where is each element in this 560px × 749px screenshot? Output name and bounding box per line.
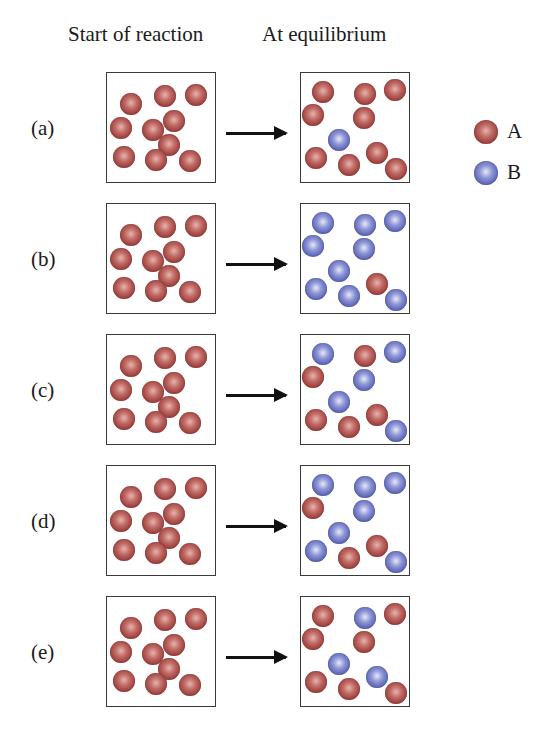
sphere-a-icon (154, 347, 176, 369)
sphere-b-icon (353, 369, 375, 391)
start-of-reaction-box (106, 72, 216, 183)
sphere-b-icon (312, 343, 334, 365)
at-equilibrium-box (300, 596, 410, 707)
sphere-a-icon (120, 617, 142, 639)
row-label: (a) (31, 116, 54, 141)
row-label: (b) (31, 247, 56, 272)
sphere-a-icon (338, 154, 360, 176)
start-of-reaction-box (106, 334, 216, 445)
sphere-b-icon (328, 522, 350, 544)
sphere-b-icon (385, 420, 407, 442)
sphere-a-icon (110, 379, 132, 401)
sphere-a-icon (384, 79, 406, 101)
sphere-a-icon (110, 248, 132, 270)
legend-item-a: A (474, 119, 522, 144)
sphere-b-icon (328, 129, 350, 151)
sphere-b-icon (302, 235, 324, 257)
legend-label-b: B (507, 160, 521, 185)
sphere-b-icon (385, 289, 407, 311)
sphere-a-icon (338, 678, 360, 700)
sphere-a-icon (474, 120, 498, 144)
sphere-b-icon (354, 607, 376, 629)
sphere-a-icon (120, 93, 142, 115)
sphere-a-icon (185, 346, 207, 368)
start-of-reaction-box (106, 465, 216, 576)
sphere-a-icon (163, 110, 185, 132)
at-equilibrium-box (300, 334, 410, 445)
sphere-a-icon (120, 355, 142, 377)
sphere-a-icon (185, 215, 207, 237)
sphere-b-icon (328, 653, 350, 675)
sphere-a-icon (120, 224, 142, 246)
sphere-a-icon (163, 372, 185, 394)
sphere-a-icon (366, 404, 388, 426)
at-equilibrium-box (300, 203, 410, 314)
at-equilibrium-header: At equilibrium (262, 22, 386, 47)
sphere-b-icon (384, 210, 406, 232)
sphere-a-icon (154, 609, 176, 631)
sphere-b-icon (353, 500, 375, 522)
sphere-b-icon (305, 278, 327, 300)
reaction-arrow-icon (226, 525, 286, 528)
sphere-a-icon (354, 83, 376, 105)
sphere-b-icon (354, 214, 376, 236)
sphere-a-icon (354, 345, 376, 367)
sphere-b-icon (328, 391, 350, 413)
sphere-a-icon (145, 149, 167, 171)
sphere-b-icon (312, 474, 334, 496)
sphere-b-icon (328, 260, 350, 282)
at-equilibrium-box (300, 72, 410, 183)
sphere-a-icon (145, 411, 167, 433)
sphere-a-icon (113, 277, 135, 299)
sphere-a-icon (185, 608, 207, 630)
row-label: (e) (31, 640, 54, 665)
start-of-reaction-box (106, 203, 216, 314)
sphere-b-icon (366, 666, 388, 688)
sphere-a-icon (154, 216, 176, 238)
sphere-a-icon (163, 503, 185, 525)
sphere-b-icon (305, 540, 327, 562)
sphere-a-icon (185, 477, 207, 499)
sphere-a-icon (154, 85, 176, 107)
reaction-arrow-icon (226, 656, 286, 659)
sphere-a-icon (145, 542, 167, 564)
sphere-a-icon (110, 117, 132, 139)
start-of-reaction-box (106, 596, 216, 707)
sphere-a-icon (179, 674, 201, 696)
sphere-a-icon (312, 605, 334, 627)
sphere-a-icon (179, 543, 201, 565)
sphere-a-icon (312, 81, 334, 103)
sphere-a-icon (110, 510, 132, 532)
sphere-a-icon (302, 497, 324, 519)
sphere-a-icon (338, 416, 360, 438)
legend-label-a: A (507, 119, 522, 144)
sphere-a-icon (338, 547, 360, 569)
sphere-a-icon (305, 147, 327, 169)
sphere-a-icon (179, 281, 201, 303)
sphere-b-icon (384, 341, 406, 363)
reaction-arrow-icon (226, 263, 286, 266)
sphere-b-icon (384, 472, 406, 494)
sphere-a-icon (145, 673, 167, 695)
sphere-a-icon (366, 142, 388, 164)
sphere-a-icon (154, 478, 176, 500)
sphere-b-icon (312, 212, 334, 234)
row-label: (d) (31, 509, 56, 534)
sphere-a-icon (163, 241, 185, 263)
legend-item-b: B (474, 160, 521, 185)
sphere-a-icon (305, 409, 327, 431)
sphere-a-icon (185, 84, 207, 106)
sphere-a-icon (353, 631, 375, 653)
sphere-a-icon (366, 273, 388, 295)
sphere-a-icon (353, 107, 375, 129)
sphere-a-icon (113, 670, 135, 692)
sphere-a-icon (305, 671, 327, 693)
start-of-reaction-header: Start of reaction (68, 22, 203, 47)
sphere-a-icon (113, 146, 135, 168)
sphere-a-icon (385, 682, 407, 704)
sphere-a-icon (179, 412, 201, 434)
sphere-b-icon (385, 551, 407, 573)
sphere-a-icon (110, 641, 132, 663)
sphere-b-icon (354, 476, 376, 498)
sphere-a-icon (302, 628, 324, 650)
